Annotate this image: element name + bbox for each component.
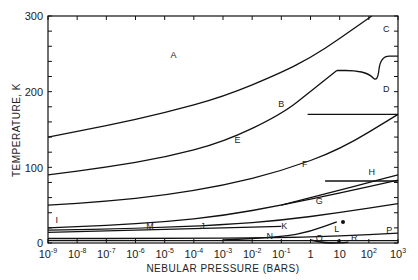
x-tick-label: 10-7 xyxy=(97,247,116,260)
region-label-q: Q xyxy=(316,233,323,243)
region-label-a: A xyxy=(170,50,176,60)
phase-boundary-curve xyxy=(48,180,398,228)
phase-diagram-chart: 300 200 100 0 TEMPERATURE, K 10-910-810-… xyxy=(0,0,418,280)
x-tick-label: 1 xyxy=(307,248,313,260)
region-label-b: B xyxy=(278,99,284,109)
y-axis: 300 200 100 0 TEMPERATURE, K xyxy=(11,10,398,249)
r-point-marker xyxy=(337,239,341,243)
phase-boundary-curve xyxy=(48,16,372,137)
phase-boundary-curve xyxy=(48,71,337,175)
x-tick-label: 10-2 xyxy=(243,247,262,260)
region-label-p: P xyxy=(386,225,392,235)
x-tick-label: 10-9 xyxy=(39,247,58,260)
l-endpoint-marker xyxy=(341,220,345,224)
x-axis-title: NEBULAR PRESSURE (BARS) xyxy=(146,263,299,274)
x-tick-label: 10-5 xyxy=(155,247,174,260)
phase-boundaries xyxy=(48,16,398,243)
region-label-c: C xyxy=(383,24,390,34)
x-tick-label: 10-6 xyxy=(126,247,145,260)
x-tick-label: 10-4 xyxy=(185,247,204,260)
phase-boundary-curve xyxy=(281,175,398,205)
region-label-n: N xyxy=(266,231,273,241)
region-label-f: F xyxy=(302,159,308,169)
region-label-l: L xyxy=(334,224,339,234)
region-label-d: D xyxy=(383,84,390,94)
region-labels: ABCDEFGHIJKLMNPQR xyxy=(55,24,392,244)
x-tick-label: 10-8 xyxy=(68,247,87,260)
region-label-r: R xyxy=(351,233,358,243)
x-tick-label: 10-3 xyxy=(214,247,233,260)
plot-frame xyxy=(48,16,398,243)
x-tick-label: 10-1 xyxy=(272,247,291,260)
x-tick-label: 102 xyxy=(361,247,377,260)
region-label-h: H xyxy=(369,167,376,177)
x-axis: 10-910-810-710-610-510-410-310-210-11101… xyxy=(39,16,406,260)
y-tick-200: 200 xyxy=(25,86,43,98)
region-label-k: K xyxy=(281,221,287,231)
region-label-j: J xyxy=(200,221,205,231)
region-label-i: I xyxy=(55,215,58,225)
region-label-g: G xyxy=(316,196,323,206)
x-tick-label: 10 xyxy=(334,248,346,260)
phase-boundary-curve xyxy=(48,233,398,238)
y-tick-100: 100 xyxy=(25,162,43,174)
x-tick-label: 103 xyxy=(390,247,406,260)
y-tick-300: 300 xyxy=(25,10,43,22)
phase-boundary-curve xyxy=(337,56,398,79)
region-label-e: E xyxy=(235,135,241,145)
y-axis-title: TEMPERATURE, K xyxy=(11,83,22,177)
region-label-m: M xyxy=(146,221,154,231)
